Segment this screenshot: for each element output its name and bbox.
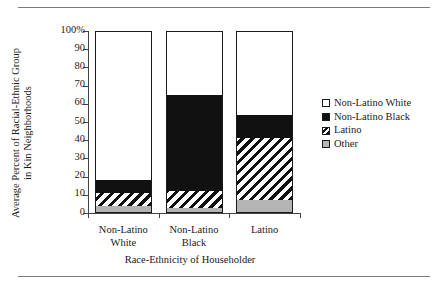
y-tick-label: 20: [75, 169, 86, 180]
y-tick-label: 50: [75, 115, 86, 126]
legend-item[interactable]: Other: [322, 139, 411, 150]
top-divider-rule: [18, 7, 430, 8]
bar-non-latino-black[interactable]: [166, 31, 223, 213]
x-tick-mark: [229, 213, 230, 218]
y-axis-title-line2: in Kin Neighborhoods: [22, 33, 34, 233]
x-axis-line: [88, 213, 300, 214]
x-category-label: Latino: [205, 224, 325, 237]
legend-item[interactable]: Non-Latino White: [322, 98, 411, 109]
x-tick-mark: [300, 213, 301, 218]
legend-item[interactable]: Latino: [322, 125, 411, 136]
y-tick-label: 40: [75, 133, 86, 144]
bar-segment-non-latino-white[interactable]: [236, 31, 293, 115]
bar-segment-other[interactable]: [236, 200, 293, 213]
bottom-divider-rule: [18, 276, 430, 277]
y-tick-label: 100%: [61, 24, 86, 35]
y-tick-label: 60: [75, 96, 86, 107]
x-tick-mark: [88, 213, 89, 218]
legend-label: Non-Latino Black: [334, 112, 410, 123]
bar-segment-latino[interactable]: [236, 138, 293, 200]
bar-segment-latino[interactable]: [95, 193, 152, 206]
legend-swatch-hatch: [322, 127, 330, 135]
y-axis-title-line1: Average Percent of Racial-Ethnic Group: [10, 33, 22, 233]
bar-non-latino-white[interactable]: [95, 31, 152, 213]
chart-figure: Average Percent of Racial-Ethnic Group i…: [0, 0, 446, 289]
y-tick-label: 10: [75, 187, 86, 198]
legend-swatch-white: [322, 99, 330, 107]
legend: Non-Latino WhiteNon-Latino BlackLatinoOt…: [322, 98, 411, 153]
bar-segment-latino[interactable]: [166, 191, 223, 207]
y-tick-label: 30: [75, 151, 86, 162]
y-tick-label: 80: [75, 60, 86, 71]
x-axis-title: Race-Ethnicity of Householder: [0, 254, 380, 265]
bar-segment-non-latino-black[interactable]: [236, 115, 293, 139]
y-axis-title: Average Percent of Racial-Ethnic Group i…: [10, 33, 44, 233]
y-tick-label: 0: [80, 206, 85, 217]
plot-area: 0102030405060708090100%: [88, 31, 300, 213]
x-tick-mark: [159, 213, 160, 218]
y-axis-line: [88, 31, 89, 213]
bar-segment-other[interactable]: [166, 208, 223, 213]
bar-segment-non-latino-white[interactable]: [166, 31, 223, 95]
bar-segment-non-latino-white[interactable]: [95, 31, 152, 180]
legend-swatch-black: [322, 113, 330, 121]
y-tick-label: 70: [75, 78, 86, 89]
legend-label: Other: [334, 139, 358, 150]
legend-label: Non-Latino White: [334, 98, 411, 109]
y-tick-label: 90: [75, 42, 86, 53]
legend-label: Latino: [334, 125, 361, 136]
bar-latino[interactable]: [236, 31, 293, 213]
bar-segment-non-latino-black[interactable]: [95, 180, 152, 193]
bar-segment-other[interactable]: [95, 206, 152, 213]
legend-item[interactable]: Non-Latino Black: [322, 112, 411, 123]
x-category-label-line: Latino: [205, 224, 325, 237]
legend-swatch-gray: [322, 140, 330, 148]
x-category-label-line: Black: [134, 237, 254, 250]
bar-segment-non-latino-black[interactable]: [166, 95, 223, 191]
